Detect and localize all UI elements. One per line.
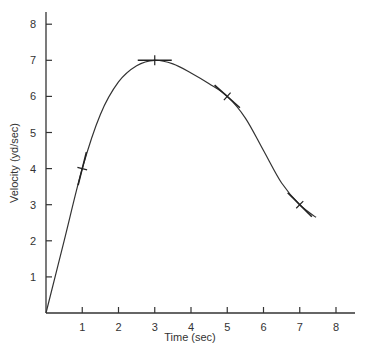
- tangent-marks: [77, 55, 311, 216]
- x-ticks: 12345678: [79, 307, 339, 333]
- axes: [46, 12, 355, 313]
- y-tick-label: 7: [30, 54, 36, 66]
- x-tick-label: 7: [297, 321, 303, 333]
- x-axis-label: Time (sec): [164, 331, 216, 343]
- y-tick-label: 4: [30, 163, 36, 175]
- y-axis-label: Velocity (yd/sec): [8, 123, 20, 203]
- y-tick-label: 8: [30, 18, 36, 30]
- x-tick-label: 2: [115, 321, 121, 333]
- velocity-curve: [46, 60, 316, 313]
- x-tick-label: 1: [79, 321, 85, 333]
- velocity-time-chart: 12345678 12345678 Time (sec) Velocity (y…: [0, 0, 365, 350]
- x-tick-label: 3: [152, 321, 158, 333]
- y-tick-label: 5: [30, 127, 36, 139]
- y-tick-label: 3: [30, 199, 36, 211]
- y-tick-label: 6: [30, 90, 36, 102]
- x-tick-label: 6: [260, 321, 266, 333]
- y-tick-label: 2: [30, 235, 36, 247]
- x-tick-label: 8: [333, 321, 339, 333]
- y-ticks: 12345678: [30, 18, 52, 283]
- y-tick-label: 1: [30, 271, 36, 283]
- x-tick-label: 5: [224, 321, 230, 333]
